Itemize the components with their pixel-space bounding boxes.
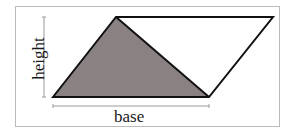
- base-label: base: [114, 108, 144, 125]
- height-label: height: [30, 29, 47, 89]
